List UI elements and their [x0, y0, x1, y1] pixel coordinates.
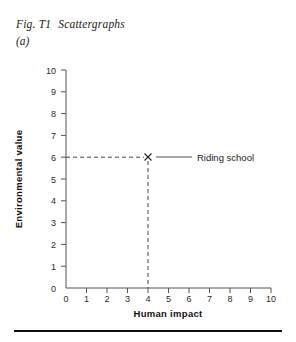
y-tick-label: 7 — [51, 131, 56, 141]
x-tick-label: 3 — [125, 294, 130, 304]
x-tick-label: 8 — [227, 294, 232, 304]
y-tick-label: 6 — [51, 153, 56, 163]
y-tick-label: 2 — [51, 240, 56, 250]
y-axis-title: Environmental value — [13, 130, 24, 229]
x-tick-label: 4 — [145, 294, 150, 304]
scatter-chart: 10 9 8 7 6 5 4 3 2 1 0 — [0, 0, 296, 320]
y-tick-label: 9 — [51, 87, 56, 97]
x-tick-label: 6 — [186, 294, 191, 304]
x-tick-label: 9 — [248, 294, 253, 304]
y-tick-label: 1 — [51, 262, 56, 272]
y-tick-label: 0 — [51, 284, 56, 294]
x-tick-label: 10 — [266, 294, 276, 304]
y-tick-label: 10 — [46, 66, 56, 76]
x-tick-label: 1 — [84, 294, 89, 304]
x-tick-label: 0 — [63, 294, 68, 304]
y-tick-label: 5 — [51, 175, 56, 185]
data-point-marker-riding-school[interactable] — [145, 154, 152, 161]
x-tick-label: 2 — [104, 294, 109, 304]
y-tick-label: 4 — [51, 196, 56, 206]
y-axis-ticks: 10 9 8 7 6 5 4 3 2 1 0 — [46, 66, 66, 294]
data-point-label: Riding school — [197, 152, 254, 163]
figure-page: Fig. T1Scattergraphs (a) 10 9 8 7 6 — [0, 0, 296, 342]
x-axis-ticks: 0 1 2 3 4 5 6 7 8 9 — [63, 288, 276, 304]
y-tick-label: 3 — [51, 218, 56, 228]
x-axis-title: Human impact — [133, 308, 203, 319]
footer-divider — [14, 330, 282, 332]
y-tick-label: 8 — [51, 109, 56, 119]
x-tick-label: 5 — [166, 294, 171, 304]
x-tick-label: 7 — [207, 294, 212, 304]
